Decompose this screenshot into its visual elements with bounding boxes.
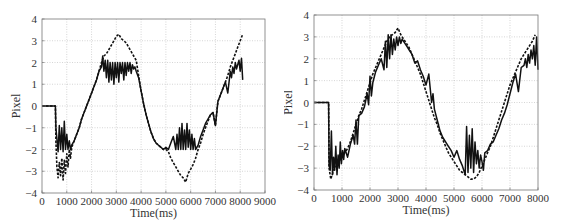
x-tick-label: 3000 xyxy=(105,195,128,207)
x-axis-label: Time(ms) xyxy=(403,203,450,217)
x-tick-label: 8000 xyxy=(527,192,550,204)
y-tick-label: 4 xyxy=(32,13,38,25)
y-tick-labels: −4−3−2−101234 xyxy=(25,13,37,199)
y-tick-label: 1 xyxy=(304,75,310,87)
x-tick-label: 1000 xyxy=(56,195,79,207)
chart-right: 010002000300040005000600070008000−4−3−2−… xyxy=(284,0,569,224)
x-tick-label: 6000 xyxy=(180,195,203,207)
y-tick-label: 3 xyxy=(304,31,310,43)
y-tick-label: −4 xyxy=(297,184,309,196)
x-tick-label: 8000 xyxy=(229,195,252,207)
right-plot-svg: 010002000300040005000600070008000−4−3−2−… xyxy=(284,0,569,224)
x-tick-label: 7000 xyxy=(204,195,227,207)
y-tick-label: −2 xyxy=(25,144,37,156)
left-plot-svg: 0100020003000400050006000700080009000−4−… xyxy=(0,0,284,224)
chart-left: 0100020003000400050006000700080009000−4−… xyxy=(0,0,284,224)
x-tick-label: 6000 xyxy=(471,192,494,204)
y-tick-label: 4 xyxy=(304,9,310,21)
y-tick-label: 2 xyxy=(32,57,38,69)
y-tick-label: −1 xyxy=(25,122,37,134)
y-tick-label: −2 xyxy=(297,140,309,152)
y-tick-labels: −4−3−2−101234 xyxy=(297,9,309,196)
x-tick-label: 0 xyxy=(311,192,317,204)
x-tick-label: 9000 xyxy=(254,195,277,207)
y-tick-label: 1 xyxy=(32,78,38,90)
y-axis-label: Pixel xyxy=(9,93,23,118)
y-tick-label: −1 xyxy=(297,118,309,130)
y-tick-label: −3 xyxy=(297,162,309,174)
y-axis-label: Pixel xyxy=(284,90,295,115)
y-tick-label: 3 xyxy=(32,35,38,47)
x-tick-label: 2000 xyxy=(81,195,104,207)
y-tick-label: 2 xyxy=(304,53,310,65)
x-tick-label: 0 xyxy=(39,195,45,207)
y-tick-label: 0 xyxy=(304,97,310,109)
x-axis-label: Time(ms) xyxy=(130,206,177,220)
y-tick-label: 0 xyxy=(32,100,38,112)
y-tick-label: −4 xyxy=(25,187,37,199)
x-tick-label: 7000 xyxy=(499,192,522,204)
x-tick-label: 2000 xyxy=(359,192,382,204)
y-tick-label: −3 xyxy=(25,165,37,177)
x-tick-label: 1000 xyxy=(331,192,354,204)
